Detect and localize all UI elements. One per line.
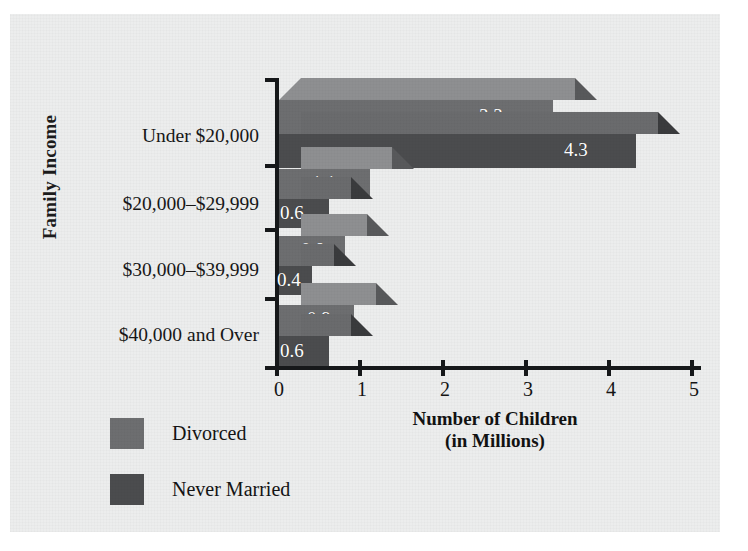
y-axis-tick-1 (265, 164, 279, 168)
x-axis-title-line1: Number of Children (285, 408, 705, 430)
x-axis-label-5: 5 (681, 378, 707, 401)
x-axis-line (275, 366, 701, 370)
x-axis-tick-2 (441, 360, 445, 376)
x-axis-title-line2: (in Millions) (285, 430, 705, 452)
x-axis-tick-5 (690, 360, 694, 376)
legend-label-divorced: Divorced (172, 422, 246, 445)
x-axis-tick-3 (524, 360, 528, 376)
y-axis-tick-top (265, 78, 279, 82)
x-axis-label-0: 0 (266, 378, 292, 401)
x-axis-label-3: 3 (515, 378, 541, 401)
legend-label-never-married: Never Married (172, 478, 290, 501)
category-label-20000-29999: $20,000–$29,999 (29, 193, 259, 215)
y-axis-title: Family Income (39, 77, 61, 277)
category-label-40000-and-over: $40,000 and Over (29, 324, 259, 346)
bar-value-never-married-30000-39999: 0.4 (277, 269, 301, 291)
x-axis-tick-1 (358, 360, 362, 376)
legend-item-divorced: Divorced (110, 418, 246, 449)
legend-swatch-divorced (110, 418, 144, 449)
category-label-under-20000: Under $20,000 (29, 125, 259, 147)
bar-chart: Family Income Under $20,000 $20,000–$29,… (10, 14, 720, 532)
chart-page: Family Income Under $20,000 $20,000–$29,… (10, 14, 720, 532)
x-axis-title: Number of Children (in Millions) (285, 408, 705, 452)
bar-value-never-married-40000-and-over: 0.6 (280, 340, 304, 362)
category-label-30000-39999: $30,000–$39,999 (29, 259, 259, 281)
bar-value-never-married-under-20000: 4.3 (564, 139, 588, 161)
x-axis-label-2: 2 (432, 378, 458, 401)
x-axis-label-4: 4 (598, 378, 624, 401)
x-axis-label-1: 1 (349, 378, 375, 401)
legend-swatch-never-married (110, 474, 144, 505)
x-axis-tick-4 (607, 360, 611, 376)
x-axis-tick-0 (275, 360, 279, 376)
y-axis-tick-3 (265, 297, 279, 301)
y-axis-tick-2 (265, 228, 279, 232)
legend-item-never-married: Never Married (110, 474, 290, 505)
